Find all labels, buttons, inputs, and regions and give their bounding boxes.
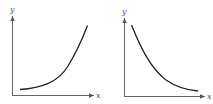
- y-axis-label: y: [121, 7, 127, 16]
- x-axis-label: x: [207, 92, 212, 101]
- graph-decay: y x: [121, 7, 212, 101]
- y-axis-label: y: [9, 5, 15, 14]
- decay-curve: [132, 25, 199, 91]
- growth-curve: [20, 26, 88, 90]
- x-axis-label: x: [96, 91, 101, 100]
- diagram-canvas: y x y x: [0, 0, 213, 104]
- graph-growth: y x: [9, 5, 101, 100]
